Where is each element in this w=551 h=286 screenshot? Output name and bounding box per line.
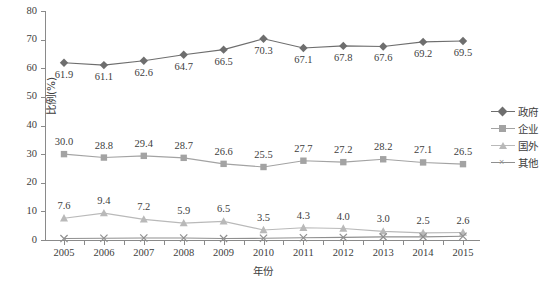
x-tick [423,241,424,245]
data-label: 6.5 [204,203,244,214]
data-label: 7.2 [124,201,164,212]
data-point-marker [419,38,427,46]
y-tick-label: 60 [11,63,37,73]
data-label: 30.0 [44,136,84,147]
legend-item-国外[interactable]: 国外 [491,137,549,154]
data-point-marker [220,217,228,224]
data-point-marker [100,61,108,69]
data-point-marker [219,45,227,53]
data-point-marker [459,37,467,45]
data-point-marker [180,51,188,59]
x-tick [104,241,105,245]
x-tick [323,241,324,245]
data-label: 3.5 [244,212,284,223]
data-label: 69.2 [403,48,443,59]
caption-strip [0,278,551,286]
y-tick-label: 10 [11,206,37,216]
chart-figure: 01020304050607080 2005200620072008200920… [0,0,551,286]
y-tick-label: 40 [11,120,37,130]
data-label: 2.6 [443,215,483,226]
x-tick [224,241,225,245]
x-tick-label: 2010 [242,247,286,258]
x-tick [283,241,284,245]
plot-area: 01020304050607080 2005200620072008200920… [45,11,480,241]
y-tick-label: 20 [11,177,37,187]
y-axis-title: 比例(%) [43,77,58,115]
data-point-marker [299,44,307,52]
data-label: 29.4 [124,138,164,149]
data-point-marker [340,159,346,165]
x-tick-label: 2015 [441,247,485,258]
data-label: 67.8 [323,52,363,63]
x-tick [303,241,304,245]
data-label: 26.5 [443,146,483,157]
x-tick-label: 2011 [281,247,325,258]
data-label: 26.6 [204,146,244,157]
data-label: 25.5 [244,149,284,160]
data-label: 67.1 [283,54,323,65]
x-tick [403,241,404,245]
data-label: 2.5 [403,215,443,226]
data-label: 67.6 [363,52,403,63]
legend-label: 企业 [515,123,538,135]
x-tick [64,241,65,245]
x-tick-label: 2007 [122,247,166,258]
x-tick [164,241,165,245]
data-point-marker [220,161,226,167]
legend-item-企业[interactable]: 企业 [491,120,549,137]
x-tick-label: 2014 [401,247,445,258]
data-label: 9.4 [84,195,124,206]
legend-square-icon [491,123,515,135]
chart-legend: 政府企业国外×其他 [491,103,549,171]
x-tick [443,241,444,245]
y-tick-label: 50 [11,91,37,101]
data-point-marker [101,154,107,160]
legend-label: 其他 [515,157,538,169]
legend-item-政府[interactable]: 政府 [491,103,549,120]
legend-item-其他[interactable]: ×其他 [491,154,549,171]
data-label: 7.6 [44,200,84,211]
data-label: 5.9 [164,205,204,216]
data-label: 69.5 [443,47,483,58]
x-tick [363,241,364,245]
data-point-marker [380,156,386,162]
data-point-marker [140,57,148,65]
data-point-marker [460,161,466,167]
x-tick [244,241,245,245]
data-point-marker [300,158,306,164]
data-point-marker [61,151,67,157]
data-point-marker [100,209,108,216]
x-tick [343,241,344,245]
y-tick-label: 80 [11,6,37,16]
x-tick-label: 2012 [321,247,365,258]
x-tick [124,241,125,245]
data-label: 64.7 [164,61,204,72]
data-point-marker [379,42,387,50]
legend-x-icon: × [491,157,515,169]
legend-label: 国外 [515,140,538,152]
data-label: 28.2 [363,141,403,152]
data-label: 4.0 [323,211,363,222]
y-tick-label: 0 [11,235,37,245]
legend-triangle-icon [491,140,515,152]
data-label: 4.3 [283,210,323,221]
x-tick-label: 2006 [82,247,126,258]
data-point-marker [260,164,266,170]
x-tick [463,241,464,245]
x-tick-label: 2013 [361,247,405,258]
data-point-marker [420,159,426,165]
data-label: 66.5 [204,56,244,67]
data-label: 62.6 [124,67,164,78]
data-point-marker [299,223,307,230]
y-tick-label: 70 [11,34,37,44]
x-tick [204,241,205,245]
x-tick [84,241,85,245]
data-label: 27.7 [283,143,323,154]
legend-diamond-icon [491,106,515,118]
x-tick [144,241,145,245]
legend-label: 政府 [515,106,538,118]
x-tick-label: 2008 [162,247,206,258]
x-tick [264,241,265,245]
data-label: 70.3 [244,45,284,56]
x-axis-title: 年份 [45,263,480,278]
